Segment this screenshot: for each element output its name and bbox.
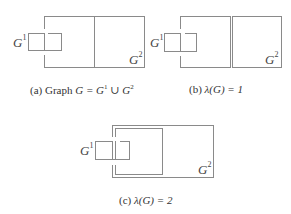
g1-label-c: G1	[80, 144, 93, 157]
caption-b: (b) λ(G) = 1	[189, 84, 243, 95]
g2-label-a: G2	[129, 53, 142, 66]
g1-label-b: G1	[150, 36, 163, 49]
g1-label-a: G1	[13, 36, 26, 49]
caption-c: (c) λ(G) = 2	[119, 195, 172, 206]
panel-b-graph	[165, 17, 282, 68]
diagram-canvas	[0, 0, 291, 214]
g2-label-c: G2	[198, 163, 211, 176]
caption-a: (a) Graph G = G1 ∪ G2	[30, 84, 134, 96]
g2-label-b: G2	[265, 53, 278, 66]
panel-c-graph	[96, 126, 214, 178]
g2-left-box	[181, 17, 231, 68]
panel-a-graph	[29, 17, 145, 68]
g2-inner-box	[116, 129, 163, 175]
